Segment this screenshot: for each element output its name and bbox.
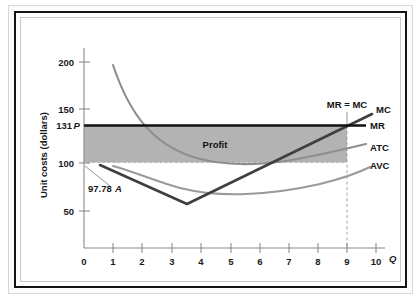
price-symbol-label: P — [74, 120, 81, 131]
x-tick-label-10: 10 — [371, 256, 382, 267]
y-tick-label-price: 131 — [56, 120, 73, 131]
figure-root: 200 150 100 50 131 P 0 1 2 3 4 5 — [0, 0, 420, 300]
x-tick-label-7: 7 — [286, 256, 291, 267]
x-tick-label-3: 3 — [169, 256, 174, 267]
x-tick-label-2: 2 — [139, 256, 144, 267]
x-tick-label-9: 9 — [344, 256, 349, 267]
x-tick-label-8: 8 — [315, 256, 320, 267]
x-tick-label-4: 4 — [198, 256, 204, 267]
x-axis-title: Q — [389, 253, 397, 264]
mc-curve-label: MC — [376, 104, 391, 115]
y-tick-label-150: 150 — [58, 104, 74, 115]
y-tick-label-50: 50 — [63, 206, 74, 217]
mr-line-label: MR — [370, 120, 385, 131]
mr-equals-mc-label: MR = MC — [327, 99, 368, 110]
avc-curve-label: AVC — [370, 160, 389, 171]
atc-curve-label: ATC — [370, 142, 389, 153]
economics-cost-curve-chart: 200 150 100 50 131 P 0 1 2 3 4 5 — [20, 17, 401, 282]
point-a-value-label: 97.78 — [88, 183, 112, 194]
y-axis-title: Unit costs (dollars) — [38, 112, 49, 198]
x-tick-label-6: 6 — [257, 256, 262, 267]
chart-plot-area: 200 150 100 50 131 P 0 1 2 3 4 5 — [20, 17, 401, 282]
point-a-symbol-label: A — [114, 183, 122, 194]
y-tick-label-100: 100 — [58, 158, 74, 169]
profit-region-label: Profit — [203, 139, 229, 150]
avc-curve — [113, 166, 370, 194]
x-tick-label-1: 1 — [110, 256, 116, 267]
y-tick-label-200: 200 — [58, 57, 74, 68]
x-tick-label-0: 0 — [81, 256, 86, 267]
x-tick-label-5: 5 — [228, 256, 234, 267]
